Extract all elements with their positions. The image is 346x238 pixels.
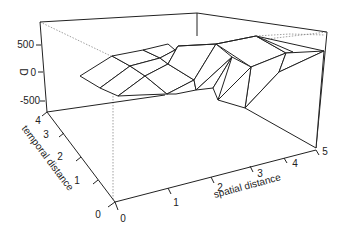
spatial-tick-1: 1 <box>173 197 179 208</box>
z-axis: 500 0 -500 D <box>17 39 45 106</box>
spatial-tick-4: 4 <box>292 158 298 169</box>
z-tick-neg500: -500 <box>20 95 40 106</box>
z-tick-0: 0 <box>30 67 36 78</box>
temporal-tick-0: 0 <box>95 209 101 220</box>
temporal-tick-4: 4 <box>35 115 41 126</box>
temporal-tick-3: 3 <box>43 129 49 140</box>
surface-mesh <box>80 34 325 148</box>
spatial-tick-0: 0 <box>120 213 126 224</box>
z-axis-label: D <box>18 68 29 75</box>
spatial-axis: 0 1 2 3 4 5 spatial distance <box>115 146 328 224</box>
spatial-tick-5: 5 <box>322 146 328 157</box>
spatial-axis-label: spatial distance <box>212 171 282 200</box>
temporal-axis: 4 3 2 1 0 temporal distance <box>20 112 115 220</box>
surface-plot: 500 0 -500 D 4 3 2 1 0 temporal distance… <box>0 0 346 238</box>
temporal-tick-2: 2 <box>57 151 63 162</box>
z-tick-500: 500 <box>17 39 34 50</box>
plot-canvas: 500 0 -500 D 4 3 2 1 0 temporal distance… <box>0 0 346 238</box>
